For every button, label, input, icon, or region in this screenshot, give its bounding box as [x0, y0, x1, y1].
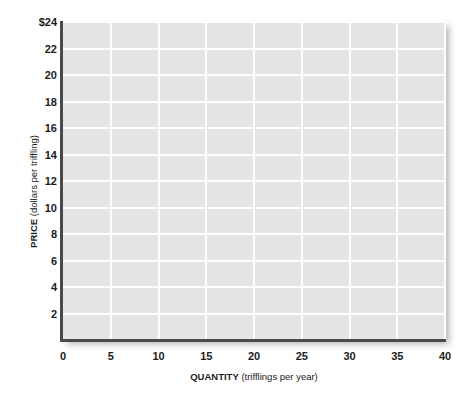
x-axis-tick-label: 5	[91, 350, 131, 362]
y-axis-title: PRICE (dollars per triffling)	[28, 42, 39, 342]
x-axis-title-rest: (trifflings per year)	[239, 371, 318, 382]
gridline-vertical	[158, 22, 160, 340]
x-axis-title: QUANTITY (trifflings per year)	[63, 371, 445, 382]
x-axis-tick-label: 25	[282, 350, 322, 362]
x-axis-tick-label: 30	[330, 350, 370, 362]
x-axis-tick-label: 35	[377, 350, 417, 362]
y-axis-title-strong: PRICE	[28, 219, 39, 248]
gridline-vertical	[396, 22, 398, 340]
x-axis-title-strong: QUANTITY	[190, 371, 239, 382]
x-axis-tick-label: 40	[425, 350, 465, 362]
gridline-vertical	[253, 22, 255, 340]
gridline-vertical	[444, 22, 446, 340]
gridline-vertical	[110, 22, 112, 340]
gridline-vertical	[349, 22, 351, 340]
y-axis-tick-label: $24	[5, 17, 57, 28]
x-axis-line	[60, 339, 446, 342]
x-axis-tick-label: 0	[43, 350, 83, 362]
y-axis-title-rest: (dollars per triffling)	[28, 135, 39, 219]
x-axis-tick-label: 20	[234, 350, 274, 362]
x-axis-tick-label: 10	[139, 350, 179, 362]
x-axis-tick-label: 15	[186, 350, 226, 362]
gridline-vertical	[301, 22, 303, 340]
chart-figure: 246810121416182022$24 0510152025303540 Q…	[0, 0, 472, 401]
plot-area	[63, 22, 445, 340]
gridline-vertical	[205, 22, 207, 340]
y-axis-line	[60, 21, 63, 342]
